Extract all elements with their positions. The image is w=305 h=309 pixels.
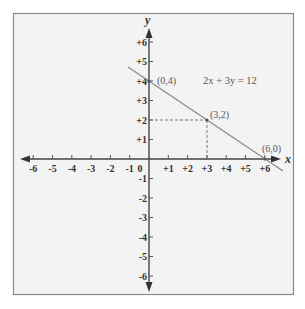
y-tick-label: -1: [139, 173, 147, 184]
chart-frame: [14, 14, 294, 295]
point-label-6-0: (6,0): [262, 143, 281, 155]
y-tick-label: -2: [139, 193, 147, 204]
x-tick-label: +5: [240, 163, 251, 174]
y-tick-label: -5: [139, 251, 147, 262]
x-tick-label: -4: [68, 163, 76, 174]
point-label-3-2: (3,2): [210, 109, 229, 121]
x-tick-label: +1: [163, 163, 174, 174]
x-tick-label: -3: [87, 163, 95, 174]
y-tick-label: +5: [136, 56, 147, 67]
x-tick-label: -5: [48, 163, 56, 174]
equation-label: 2x + 3y = 12: [203, 75, 257, 86]
x-tick-label: +3: [202, 163, 213, 174]
x-axis-label: x: [284, 152, 291, 166]
y-tick-label: -6: [139, 271, 147, 282]
point-6-0: [263, 157, 266, 160]
y-tick-label: +4: [136, 76, 147, 87]
x-tick-label: -6: [29, 163, 37, 174]
y-tick-label: +1: [136, 134, 147, 145]
point-label-0-4: (0,4): [157, 75, 176, 87]
y-tick-label: +6: [136, 37, 147, 48]
x-tick-label: -1: [126, 163, 134, 174]
x-tick-label: +4: [221, 163, 232, 174]
x-tick-label: +2: [182, 163, 193, 174]
coordinate-plane-chart: x -6-5-4-3-2-10+1+2+3+4+5+6 y +6+5+4+3+2…: [0, 0, 305, 309]
x-tick-label: -2: [106, 163, 114, 174]
y-tick-label: -4: [139, 232, 147, 243]
point-3-2: [205, 118, 208, 121]
y-tick-label: -3: [139, 212, 147, 223]
y-tick-label: +3: [136, 95, 147, 106]
y-axis-label: y: [143, 13, 151, 27]
y-tick-label: +2: [136, 115, 147, 126]
point-0-4: [147, 79, 150, 82]
x-tick-label: +6: [259, 163, 270, 174]
